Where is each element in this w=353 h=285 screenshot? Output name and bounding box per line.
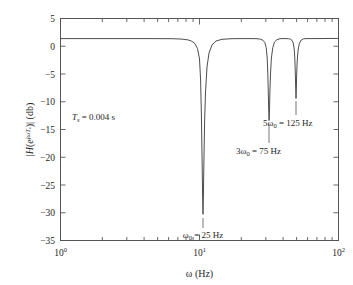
annotation-5w0-value: = 125 Hz [277, 118, 313, 128]
y-tick-label: −35 [40, 236, 55, 246]
annotation-ts-value: = 0.004 s [80, 112, 116, 122]
x-tick-base: 10 [54, 248, 64, 258]
y-tick-label: −5 [45, 70, 55, 80]
y-tick-label: −25 [40, 181, 55, 191]
x-tick-base: 10 [193, 248, 203, 258]
y-tick-label: 0 [50, 42, 55, 52]
y-tick-label: −30 [40, 208, 55, 218]
x-tick-exponent: 0 [64, 246, 67, 253]
y-tick-label: −10 [40, 97, 55, 107]
x-tick-exponent: 1 [203, 246, 206, 253]
annotation-w0-value: = 25 Hz [192, 230, 223, 240]
x-tick-base: 10 [332, 248, 342, 258]
chart-svg: 5 0 −5 −10 −15 −20 −25 −30 −35 [0, 0, 353, 285]
annotation-3w0-value: = 75 Hz [250, 146, 281, 156]
x-tick-exponent: 2 [342, 246, 345, 253]
y-label-unit: (db) [24, 103, 36, 122]
annotation-notch-5-text: 5ω0 = 125 Hz [263, 118, 313, 129]
y-tick-label: −15 [40, 125, 55, 135]
x-axis-label: ω (Hz) [186, 268, 213, 280]
figure-container: 5 0 −5 −10 −15 −20 −25 −30 −35 [0, 0, 353, 285]
annotation-notch-3-text: 3ω0 = 75 Hz [236, 146, 281, 157]
y-tick-label: 5 [50, 14, 55, 24]
y-tick-label: −20 [40, 153, 55, 163]
